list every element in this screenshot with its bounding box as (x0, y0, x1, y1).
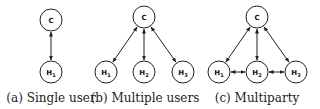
node-b-C: C (133, 6, 155, 28)
edge-c-C-H1 (226, 27, 250, 62)
node-b-H3: H3 (172, 61, 194, 83)
caption-single-user: (a) Single user (6, 91, 95, 105)
edge-b-C-H3 (151, 27, 176, 62)
node-a-C: C (40, 9, 62, 31)
edge-c-C-H3 (264, 27, 289, 62)
svg-text:C: C (254, 14, 259, 22)
nodes-layer: CH1CH1H2H3CH1H2H3 (40, 6, 307, 83)
node-b-H2: H2 (133, 61, 155, 83)
node-c-H2: H2 (246, 61, 268, 83)
node-c-H1: H1 (208, 61, 230, 83)
edge-b-C-H1 (113, 27, 137, 62)
node-c-H3: H3 (285, 61, 307, 83)
node-b-H1: H1 (95, 61, 117, 83)
node-a-H1: H1 (40, 61, 62, 83)
caption-multiparty: (c) Multiparty (215, 91, 300, 105)
svg-text:C: C (141, 14, 146, 22)
node-c-C: C (246, 6, 268, 28)
svg-text:C: C (48, 17, 53, 25)
caption-multiple-users: (b) Multiple users (91, 91, 200, 105)
